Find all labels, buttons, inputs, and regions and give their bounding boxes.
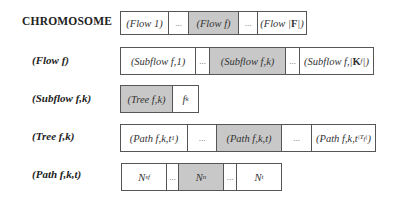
- chromosome-row: (Flow 1) ... (Flow f) ... (Flow |F|): [120, 11, 307, 35]
- chromosome-label: CHROMOSOME: [22, 15, 112, 27]
- tree-label: (Tree f,k): [32, 130, 74, 142]
- flow-1-cell: (Flow 1): [121, 12, 169, 34]
- ellipsis-cell: ...: [224, 164, 237, 190]
- subflow-label: (Subflow f,k): [32, 92, 91, 104]
- flow-last-cell: (Flow |F|): [258, 12, 306, 34]
- flow-label: (Flow f): [32, 54, 69, 66]
- ellipsis-cell: ...: [282, 125, 312, 151]
- ellipsis-cell: ...: [188, 125, 217, 151]
- nsf-cell: Nsf: [122, 164, 167, 190]
- tree-row: (Path f,k,t1) ... (Path f,k,t) ... (Path…: [120, 124, 376, 152]
- ellipsis-cell: ...: [169, 12, 189, 34]
- subflow-row: (Tree f,k) fk: [120, 85, 199, 113]
- tree-cell: (Tree f,k): [121, 86, 173, 112]
- flow-row: (Subflow f,1) ... (Subflow f,k) ... (Sub…: [120, 47, 374, 75]
- path-last-cell: (Path f,k,t|Tf|): [312, 125, 375, 151]
- path-t-cell: (Path f,k,t): [217, 125, 282, 151]
- ellipsis-cell: ...: [167, 164, 179, 190]
- nt-cell: Nt: [237, 164, 281, 190]
- ellipsis-cell: ...: [196, 48, 210, 74]
- ellipsis-cell: ...: [286, 48, 300, 74]
- path-label: (Path f,k,t): [32, 168, 81, 180]
- fk-cell: fk: [173, 86, 198, 112]
- nn-cell: Nn: [179, 164, 224, 190]
- subflow-1-cell: (Subflow f,1): [121, 48, 196, 74]
- subflow-last-cell: (Subflow f,|Kf|): [300, 48, 373, 74]
- path-1-cell: (Path f,k,t1): [121, 125, 188, 151]
- ellipsis-cell: ...: [239, 12, 258, 34]
- subflow-k-cell: (Subflow f,k): [210, 48, 286, 74]
- path-row: Nsf ... Nn ... Nt: [121, 163, 282, 191]
- flow-f-cell: (Flow f): [189, 12, 239, 34]
